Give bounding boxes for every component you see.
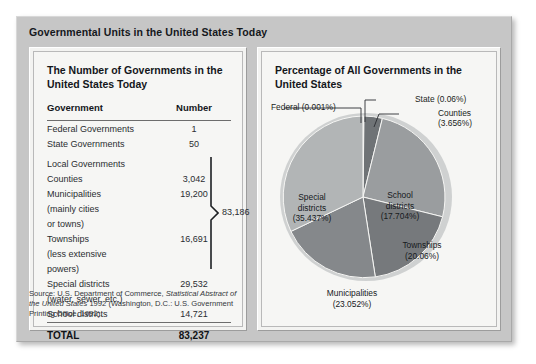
row-label: powers)	[47, 262, 157, 277]
row-number	[157, 262, 231, 277]
table-panel-heading: The Number of Governments in the United …	[47, 63, 232, 91]
table-row: State Governments 50	[47, 136, 231, 151]
row-number	[157, 247, 231, 262]
table-header-row: Government Number	[47, 102, 231, 121]
column-header-number: Number	[157, 102, 231, 121]
pie-label-school-districts: Schooldistricts(17.704%)	[358, 190, 442, 222]
row-label: or towns)	[47, 217, 157, 232]
table-row: Federal Governments 1	[47, 121, 231, 137]
row-label: State Governments	[47, 136, 157, 151]
chart-panel: Percentage of All Governments in the Uni…	[257, 47, 501, 331]
table-total-row: TOTAL 83,237	[47, 322, 231, 343]
table-row: Counties 3,042	[47, 172, 231, 187]
source-prefix: Source: U.S. Department of Commerce,	[29, 289, 166, 298]
table-row: Municipalities 19,200	[47, 187, 231, 202]
pie-callout-counties: Counties(3.656%)	[438, 108, 472, 128]
row-number	[157, 151, 231, 172]
row-number: 19,200	[157, 187, 231, 202]
pie-callout-state: State (0.06%)	[415, 94, 466, 104]
figure-title: Governmental Units in the United States …	[29, 26, 267, 38]
total-label: TOTAL	[47, 322, 157, 343]
table-row: or towns)	[47, 217, 231, 232]
column-header-government: Government	[47, 102, 157, 121]
local-governments-subtotal: 83,186	[222, 207, 250, 217]
row-number: 16,691	[157, 232, 231, 247]
local-governments-brace	[209, 156, 219, 270]
table-row: Townships 16,691	[47, 232, 231, 247]
row-number	[157, 202, 231, 217]
table-row: powers)	[47, 262, 231, 277]
row-label: Counties	[47, 172, 157, 187]
pie-callout-federal: Federal (0.001%)	[271, 102, 336, 112]
pie-label-municipalities: Municipalities(23.052%)	[304, 288, 400, 309]
chart-panel-inner: Percentage of All Governments in the Uni…	[261, 51, 497, 327]
table-row: (less extensive	[47, 247, 231, 262]
table-panel-inner: The Number of Governments in the United …	[33, 51, 243, 327]
row-label: Municipalities	[47, 187, 157, 202]
pie-label-special-districts: Specialdistricts(35.437%)	[269, 192, 355, 224]
row-label: (less extensive	[47, 247, 157, 262]
row-number: 3,042	[157, 172, 231, 187]
row-number: 50	[157, 136, 231, 151]
table-row: Local Governments	[47, 151, 231, 172]
row-number	[157, 217, 231, 232]
row-label: (mainly cities	[47, 202, 157, 217]
row-label: Federal Governments	[47, 121, 157, 137]
figure-frame: Governmental Units in the United States …	[16, 16, 512, 342]
row-label: Local Governments	[47, 151, 157, 172]
total-number: 83,237	[157, 322, 231, 343]
pie-label-townships: Townships(20.06%)	[380, 240, 464, 261]
table-row: (mainly cities	[47, 202, 231, 217]
row-number: 1	[157, 121, 231, 137]
source-note: Source: U.S. Department of Commerce, Sta…	[29, 289, 241, 319]
pie-chart: Federal (0.001%) State (0.06%) Counties(…	[262, 52, 496, 326]
row-label: Townships	[47, 232, 157, 247]
